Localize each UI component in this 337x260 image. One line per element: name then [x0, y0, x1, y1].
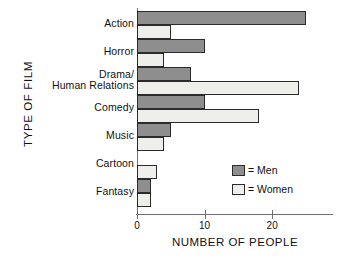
category-label: Action	[38, 18, 134, 30]
category-label-line: Music	[38, 130, 134, 142]
bar-men-1	[137, 39, 205, 53]
bar-women-4	[137, 137, 164, 151]
x-axis-tick	[205, 210, 206, 219]
category-label: Horror	[38, 46, 134, 58]
bar-women-0	[137, 25, 171, 39]
bar-women-5	[137, 165, 157, 179]
bar-women-2	[137, 81, 299, 95]
legend-swatch-men	[232, 165, 245, 176]
category-label: Fantasy	[38, 186, 134, 198]
category-label-line: Fantasy	[38, 186, 134, 198]
bar-chart: TYPE OF FILM ActionHorrorDrama/Human Rel…	[0, 0, 337, 260]
category-label-line: Human Relations	[38, 80, 134, 92]
category-axis-labels: ActionHorrorDrama/Human RelationsComedyM…	[38, 8, 134, 213]
x-axis-tick-label: 0	[134, 220, 140, 231]
legend-label-women: = Women	[248, 183, 293, 195]
chart-legend: = Men = Women	[232, 162, 328, 200]
y-axis-title: TYPE OF FILM	[22, 29, 34, 179]
legend-item-women: = Women	[232, 181, 328, 197]
x-axis-title: NUMBER OF PEOPLE	[137, 236, 333, 248]
legend-swatch-women	[232, 184, 245, 195]
bar-women-1	[137, 53, 164, 67]
bar-men-2	[137, 67, 191, 81]
bar-men-3	[137, 95, 205, 109]
x-axis-tick-label: 20	[267, 220, 278, 231]
x-axis-tick	[272, 210, 273, 219]
bar-men-4	[137, 123, 171, 137]
category-label-line: Horror	[38, 46, 134, 58]
category-label: Drama/Human Relations	[38, 69, 134, 92]
category-label: Comedy	[38, 102, 134, 114]
bar-women-6	[137, 193, 151, 207]
category-label: Music	[38, 130, 134, 142]
x-axis-tick	[137, 210, 138, 219]
legend-label-men: = Men	[248, 164, 277, 176]
category-label-line: Action	[38, 18, 134, 30]
bar-women-3	[137, 109, 259, 123]
category-label: Cartoon	[38, 158, 134, 170]
x-axis-tick-label: 10	[199, 220, 210, 231]
legend-item-men: = Men	[232, 162, 328, 178]
category-label-line: Cartoon	[38, 158, 134, 170]
x-axis-line	[136, 214, 333, 215]
category-label-line: Comedy	[38, 102, 134, 114]
bar-men-6	[137, 179, 151, 193]
bar-men-0	[137, 11, 306, 25]
